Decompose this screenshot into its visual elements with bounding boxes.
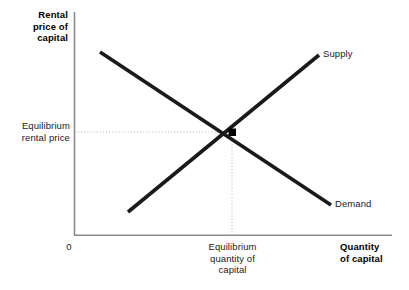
- supply-curve: [128, 55, 319, 212]
- equilibrium-quantity-label: Equilibrium quantity of capital: [185, 241, 280, 276]
- y-axis-title: Rental price of capital: [6, 9, 68, 44]
- origin-label: 0: [63, 241, 75, 253]
- supply-curve-label: Supply: [323, 48, 353, 60]
- supply-demand-figure: Rental price of capital Quantity of capi…: [0, 0, 409, 290]
- demand-curve-label: Demand: [335, 198, 372, 210]
- equilibrium-point-marker: [229, 129, 237, 137]
- x-axis-title: Quantity of capital: [340, 241, 406, 264]
- equilibrium-rental-price-label: Equilibrium rental price: [2, 120, 70, 143]
